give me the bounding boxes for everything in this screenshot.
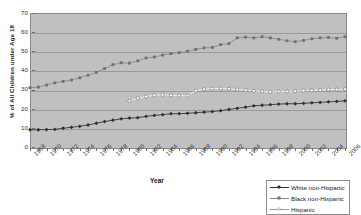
x-tick-mark bbox=[30, 148, 31, 151]
x-tick-label: 2006 bbox=[347, 142, 361, 157]
x-tick-mark bbox=[47, 148, 48, 151]
x-tick-mark bbox=[345, 148, 346, 151]
x-tick-mark bbox=[212, 148, 213, 151]
open-circle-icon bbox=[277, 207, 281, 211]
y-tick-label: 40 bbox=[12, 67, 28, 73]
x-tick-mark bbox=[328, 148, 329, 151]
legend-item-black-non-hispanic: Black non-Hispanic bbox=[269, 194, 349, 204]
x-tick-mark bbox=[179, 148, 180, 151]
y-tick-mark bbox=[32, 128, 35, 129]
gridline bbox=[31, 110, 346, 111]
x-tick-mark bbox=[96, 148, 97, 151]
legend-label-white: White non-Hispanic bbox=[291, 184, 345, 191]
x-tick-mark bbox=[129, 148, 130, 151]
y-tick-mark bbox=[32, 51, 35, 52]
x-tick-mark bbox=[246, 148, 247, 151]
y-tick-label: 0 bbox=[12, 144, 28, 150]
legend-item-white-non-hispanic: White non-Hispanic bbox=[269, 183, 349, 193]
y-tick-mark bbox=[32, 90, 35, 91]
legend-item-hispanic: Hispanic bbox=[269, 205, 349, 215]
plot-area bbox=[30, 13, 347, 149]
y-tick-label: 20 bbox=[12, 106, 28, 112]
y-tick-mark bbox=[32, 70, 35, 71]
y-tick-label: 30 bbox=[12, 86, 28, 92]
y-tick-label: 50 bbox=[12, 48, 28, 54]
y-tick-label: 10 bbox=[12, 125, 28, 131]
legend-label-black: Black non-Hispanic bbox=[291, 195, 344, 202]
y-tick-label: 60 bbox=[12, 29, 28, 35]
x-tick-mark bbox=[63, 148, 64, 151]
y-tick-mark bbox=[32, 109, 35, 110]
y-axis-ticks: 010203040506070 bbox=[4, 0, 28, 160]
legend-label-hispanic: Hispanic bbox=[291, 206, 315, 213]
x-tick-mark bbox=[295, 148, 296, 151]
filled-square-icon bbox=[277, 196, 281, 200]
gridline bbox=[31, 91, 346, 92]
gridline bbox=[31, 71, 346, 72]
x-tick-mark bbox=[146, 148, 147, 151]
y-tick-label: 70 bbox=[12, 10, 28, 16]
legend: White non-Hispanic Black non-Hispanic Hi… bbox=[266, 180, 350, 215]
filled-diamond-icon bbox=[277, 185, 281, 189]
gridline bbox=[31, 129, 346, 130]
y-tick-mark bbox=[32, 13, 35, 14]
x-axis-title: Year bbox=[150, 177, 164, 184]
x-tick-mark bbox=[262, 148, 263, 151]
gridline bbox=[31, 33, 346, 34]
gridline bbox=[31, 52, 346, 53]
y-tick-mark bbox=[32, 32, 35, 33]
